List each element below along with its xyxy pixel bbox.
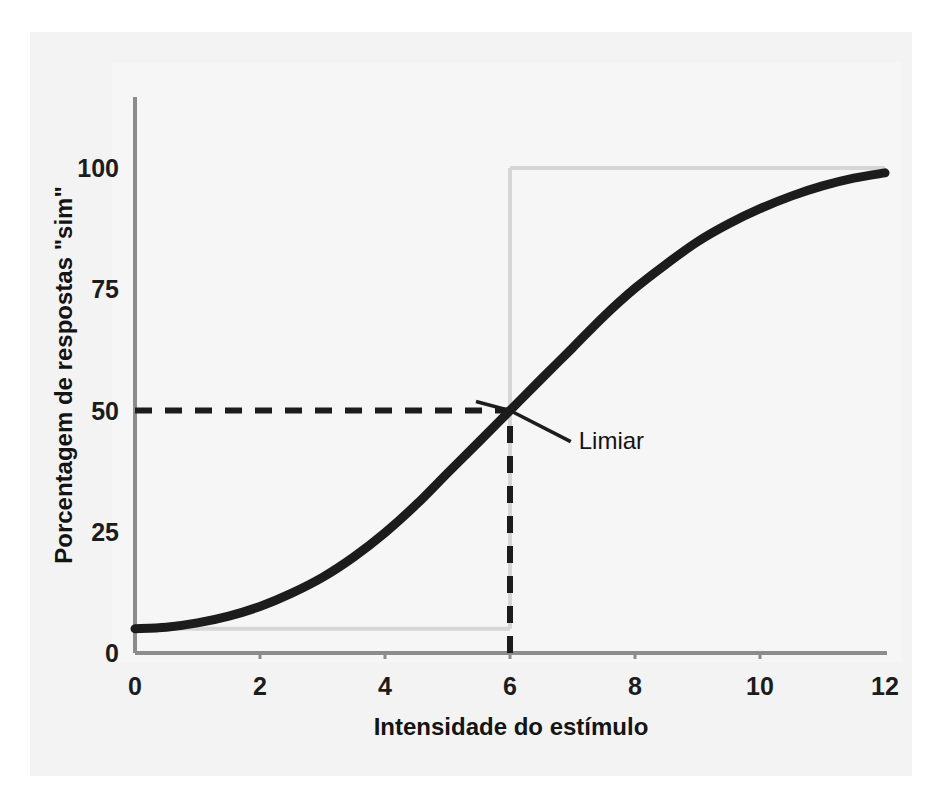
x-axis-tick-label: 10 — [746, 672, 774, 700]
y-axis-tick-labels-group: 0255075100 — [77, 154, 119, 667]
x-axis-tick-label: 4 — [378, 672, 392, 700]
y-axis-tick-label: 75 — [91, 275, 119, 303]
psychometric-function-chart: 024681012 0255075100 Limiar Intensidade … — [0, 0, 943, 798]
x-axis-tick-label: 6 — [503, 672, 517, 700]
x-axis-tick-label: 8 — [628, 672, 642, 700]
x-axis-tick-label: 12 — [871, 672, 899, 700]
x-axis-title: Intensidade do estímulo — [374, 713, 649, 740]
y-axis-tick-label: 100 — [77, 154, 119, 182]
annotation-limiar-label: Limiar — [579, 427, 644, 454]
reference-lines-group — [135, 411, 510, 654]
y-axis-tick-label: 25 — [91, 518, 119, 546]
y-axis-tick-label: 0 — [105, 639, 119, 667]
x-axis-tick-label: 2 — [253, 672, 267, 700]
x-axis-tick-labels-group: 024681012 — [128, 672, 899, 700]
annotation-leader-line — [510, 411, 571, 442]
y-axis-title: Porcentagem de respostas "sim" — [50, 186, 77, 564]
y-axis-tick-label: 50 — [91, 397, 119, 425]
x-axis-tick-label: 0 — [128, 672, 142, 700]
figure-container: 024681012 0255075100 Limiar Intensidade … — [0, 0, 943, 798]
